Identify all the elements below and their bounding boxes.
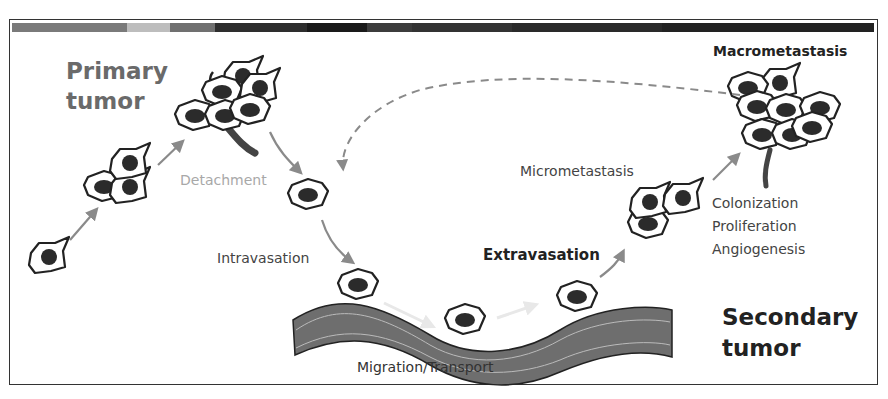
dashed-arrow [343,79,740,168]
color-bar [12,23,874,32]
secondary-tumor-label: Secondary tumor [722,302,858,364]
extravasation-label: Extravasation [483,246,600,264]
macrometastasis-cluster [728,63,840,186]
cell-icon [338,269,378,299]
micrometastasis-label: Micrometastasis [520,163,634,179]
detachment-label: Detachment [180,172,267,188]
migration-label: Migration/Transport [357,359,493,375]
flow-arrow-icon [497,305,535,318]
cell-icon [110,143,150,179]
primary-tumor-label: Primary tumor [66,56,168,116]
detached-cell-icon [288,179,328,209]
cell-icon [29,237,69,273]
intravasation-label: Intravasation [217,250,309,266]
primary-tumor-cluster [175,56,280,153]
cell-icon [557,281,597,311]
colonization-label: Colonization Proliferation Angiogenesis [712,192,805,261]
cell-icon [445,304,485,334]
macrometastasis-label: Macrometastasis [713,43,847,59]
